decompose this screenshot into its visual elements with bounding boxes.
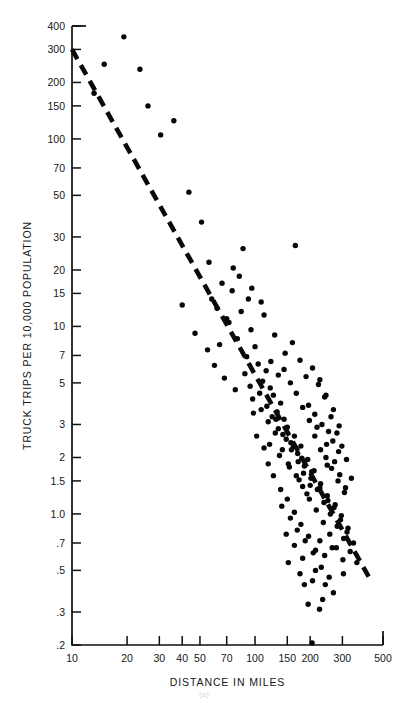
data-point <box>171 118 176 123</box>
data-point <box>312 433 317 438</box>
data-point <box>286 560 291 565</box>
x-tick-label: 150 <box>279 652 297 664</box>
data-point <box>268 385 273 390</box>
data-point <box>304 491 309 496</box>
y-tick-label: 3 <box>59 418 65 430</box>
data-point <box>325 498 330 503</box>
data-point <box>233 387 238 392</box>
data-point <box>332 502 337 507</box>
data-point <box>281 367 286 372</box>
data-point <box>292 433 297 438</box>
data-point <box>300 405 305 410</box>
data-point <box>293 243 298 248</box>
data-point <box>314 507 319 512</box>
x-axis-title: DISTANCE IN MILES <box>170 676 285 688</box>
data-point <box>248 327 253 332</box>
data-point <box>326 574 331 579</box>
data-point <box>344 457 349 462</box>
data-point <box>271 392 276 397</box>
data-point <box>290 340 295 345</box>
x-tick-label: 10 <box>66 652 78 664</box>
data-point <box>330 438 335 443</box>
data-point <box>298 443 303 448</box>
y-tick-label: 5 <box>59 377 65 389</box>
data-point <box>319 422 324 427</box>
data-point <box>252 344 257 349</box>
data-point <box>285 496 290 501</box>
data-point <box>323 455 328 460</box>
data-point <box>288 380 293 385</box>
x-tick-label: 100 <box>246 652 264 664</box>
data-point <box>246 296 251 301</box>
data-point <box>296 477 301 482</box>
y-tick-label: .3 <box>56 606 65 618</box>
data-point <box>192 331 197 336</box>
data-point <box>319 564 324 569</box>
data-point <box>237 274 242 279</box>
data-point <box>303 538 308 543</box>
data-point <box>320 597 325 602</box>
scatter-plot: .2.3.5.71.01.523571015203050701001502003… <box>0 0 409 706</box>
y-tick-label: 200 <box>47 76 65 88</box>
y-axis-title: TRUCK TRIPS PER 10,000 POPULATION <box>21 221 33 450</box>
data-point <box>298 522 303 527</box>
data-point <box>249 285 254 290</box>
data-point <box>316 382 321 387</box>
y-tick-label: .2 <box>56 639 65 651</box>
figure-caption: (a) <box>199 690 209 699</box>
data-point <box>266 461 271 466</box>
data-point <box>324 442 329 447</box>
data-points <box>91 34 359 646</box>
data-point <box>240 246 245 251</box>
data-point <box>322 553 327 558</box>
data-point <box>307 418 312 423</box>
data-point <box>343 485 348 490</box>
data-point <box>217 342 222 347</box>
y-tick-label: 1.5 <box>50 475 65 487</box>
data-point <box>300 556 305 561</box>
data-point <box>310 578 315 583</box>
data-point <box>292 543 297 548</box>
y-tick-label: 20 <box>53 264 65 276</box>
data-point <box>251 410 256 415</box>
data-point <box>242 371 247 376</box>
data-point <box>278 487 283 492</box>
data-point <box>302 582 307 587</box>
data-point <box>335 478 340 483</box>
data-point <box>280 447 285 452</box>
data-point <box>145 103 150 108</box>
y-tick-label: 1.0 <box>50 508 65 520</box>
y-tick-label: 15 <box>53 287 65 299</box>
y-tick-label: 70 <box>53 162 65 174</box>
data-point <box>288 515 293 520</box>
axis-labels: .2.3.5.71.01.523571015203050701001502003… <box>21 20 392 699</box>
data-point <box>310 365 315 370</box>
data-point <box>273 430 278 435</box>
data-point <box>238 309 243 314</box>
data-point <box>326 429 331 434</box>
data-point <box>339 513 344 518</box>
data-point <box>345 525 350 530</box>
data-point <box>272 332 277 337</box>
data-point <box>339 443 344 448</box>
data-point <box>342 490 347 495</box>
figure-panel: .2.3.5.71.01.523571015203050701001502003… <box>0 0 409 706</box>
data-point <box>287 464 292 469</box>
data-point <box>341 571 346 576</box>
data-point <box>267 442 272 447</box>
data-point <box>303 374 308 379</box>
data-point <box>258 407 263 412</box>
x-tick-label: 500 <box>374 652 392 664</box>
data-point <box>295 527 300 532</box>
data-point <box>158 132 163 137</box>
data-point <box>297 358 302 363</box>
data-point <box>307 496 312 501</box>
data-point <box>257 391 262 396</box>
data-point <box>329 466 334 471</box>
data-point <box>278 400 283 405</box>
data-point <box>284 531 289 536</box>
data-point <box>331 590 336 595</box>
y-tick-label: 7 <box>59 349 65 361</box>
data-point <box>205 347 210 352</box>
y-tick-label: .5 <box>56 564 65 576</box>
